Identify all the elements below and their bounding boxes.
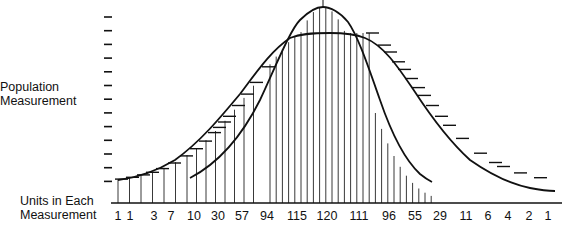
x-count-label: 111 — [349, 209, 368, 223]
x-count-label: 120 — [317, 209, 338, 223]
x-count-label: 11 — [460, 209, 473, 223]
x-count-label: 2 — [526, 209, 533, 223]
x-count-label: 3 — [151, 209, 158, 223]
x-count-label: 10 — [187, 209, 201, 223]
x-count-label: 55 — [408, 209, 422, 223]
distribution-chart: 113710305794115120111965529116421 — [0, 0, 562, 228]
wide-curve — [118, 33, 555, 191]
x-count-label: 4 — [505, 209, 512, 223]
x-count-label: 1 — [127, 209, 134, 223]
x-count-label: 57 — [235, 209, 249, 223]
y-axis-ticks — [104, 17, 112, 181]
x-count-label: 1 — [115, 209, 122, 223]
x-count-label: 115 — [287, 209, 307, 223]
x-count-label: 30 — [211, 209, 225, 223]
x-count-label: 94 — [260, 209, 274, 223]
x-axis-counts: 113710305794115120111965529116421 — [115, 209, 552, 223]
x-count-label: 6 — [485, 209, 492, 223]
histogram-bars — [118, 7, 431, 203]
x-count-label: 1 — [545, 209, 552, 223]
x-count-label: 29 — [433, 209, 447, 223]
x-count-label: 96 — [382, 209, 396, 223]
x-count-label: 7 — [168, 209, 175, 223]
